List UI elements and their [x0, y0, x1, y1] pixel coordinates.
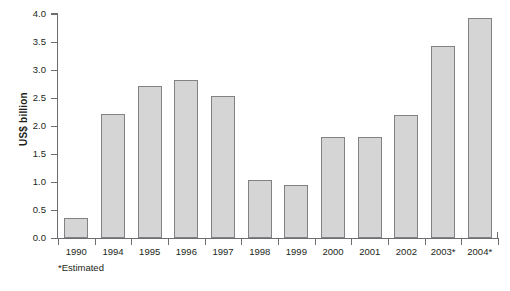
- x-axis-label: 2003*: [425, 246, 462, 257]
- x-axis-label: 1994: [95, 246, 132, 257]
- x-axis-tick: [58, 238, 59, 245]
- bar-2002: [394, 115, 418, 238]
- x-axis-label: 1996: [168, 246, 205, 257]
- x-axis-tick: [278, 238, 279, 245]
- bar-1997: [211, 96, 235, 238]
- bar-1994: [101, 114, 125, 238]
- y-axis-tick: 3.0: [51, 70, 58, 71]
- x-axis-tick: [461, 238, 462, 245]
- y-axis-tick-label: 2.5: [33, 92, 46, 103]
- bar-slot: [58, 14, 95, 238]
- x-axis-tick: [205, 238, 206, 245]
- y-axis-tick: 2.0: [51, 126, 58, 127]
- bar-slot: [95, 14, 132, 238]
- x-axis-tick: [425, 238, 426, 245]
- bar-slot: [278, 14, 315, 238]
- bar-1998: [248, 180, 272, 238]
- bar-2000: [321, 137, 345, 238]
- x-axis-tick: [315, 238, 316, 245]
- x-axis-label: 1995: [131, 246, 168, 257]
- x-axis-ticks: [58, 238, 498, 246]
- x-axis-label: 1997: [205, 246, 242, 257]
- bar-slot: [168, 14, 205, 238]
- x-axis-label: 1999: [278, 246, 315, 257]
- y-axis-tick-label: 0.0: [33, 232, 46, 243]
- y-axis-tick: 4.0: [51, 14, 58, 15]
- y-axis-tick-label: 0.5: [33, 204, 46, 215]
- y-axis-tick: 1.0: [51, 182, 58, 183]
- bar-slot: [461, 14, 498, 238]
- x-axis-label: 1998: [241, 246, 278, 257]
- x-axis-tick: [351, 238, 352, 245]
- bar-1999: [284, 185, 308, 238]
- y-axis-tick-label: 2.0: [33, 120, 46, 131]
- y-axis-tick: 0.5: [51, 210, 58, 211]
- bar-series: [58, 14, 498, 238]
- y-axis-tick: 0.0: [51, 238, 58, 239]
- bar-slot: [388, 14, 425, 238]
- bar-slot: [425, 14, 462, 238]
- x-axis-label: 2001: [351, 246, 388, 257]
- x-axis-tick: [388, 238, 389, 245]
- bar-2004-est: [468, 18, 492, 238]
- bar-2001: [358, 137, 382, 238]
- bar-slot: [241, 14, 278, 238]
- bar-1990: [64, 218, 88, 238]
- x-axis-label: 1990: [58, 246, 95, 257]
- y-axis-tick: 3.5: [51, 42, 58, 43]
- x-axis-label: 2004*: [461, 246, 498, 257]
- x-axis-tick: [498, 238, 499, 245]
- y-axis-tick-label: 3.5: [33, 36, 46, 47]
- y-axis-tick-label: 3.0: [33, 64, 46, 75]
- x-axis-label: 2000: [315, 246, 352, 257]
- x-axis-tick: [131, 238, 132, 245]
- bar-1996: [174, 80, 198, 238]
- y-axis-tick: 1.5: [51, 154, 58, 155]
- bar-slot: [315, 14, 352, 238]
- x-axis-tick: [95, 238, 96, 245]
- y-axis-tick: 2.5: [51, 98, 58, 99]
- y-axis-tick-label: 1.5: [33, 148, 46, 159]
- bar-1995: [138, 86, 162, 238]
- bar-chart: US$ billion 4.03.53.02.52.01.51.00.50.0 …: [0, 0, 510, 291]
- x-axis-label: 2002: [388, 246, 425, 257]
- x-axis-tick: [168, 238, 169, 245]
- y-axis-tick-label: 1.0: [33, 176, 46, 187]
- x-axis-labels: 1990199419951996199719981999200020012002…: [58, 246, 498, 257]
- bar-slot: [205, 14, 242, 238]
- x-axis-tick: [241, 238, 242, 245]
- bar-slot: [131, 14, 168, 238]
- bar-2003-est: [431, 46, 455, 238]
- y-axis-tick-label: 4.0: [33, 8, 46, 19]
- footnote-estimated: *Estimated: [58, 262, 104, 273]
- bar-slot: [351, 14, 388, 238]
